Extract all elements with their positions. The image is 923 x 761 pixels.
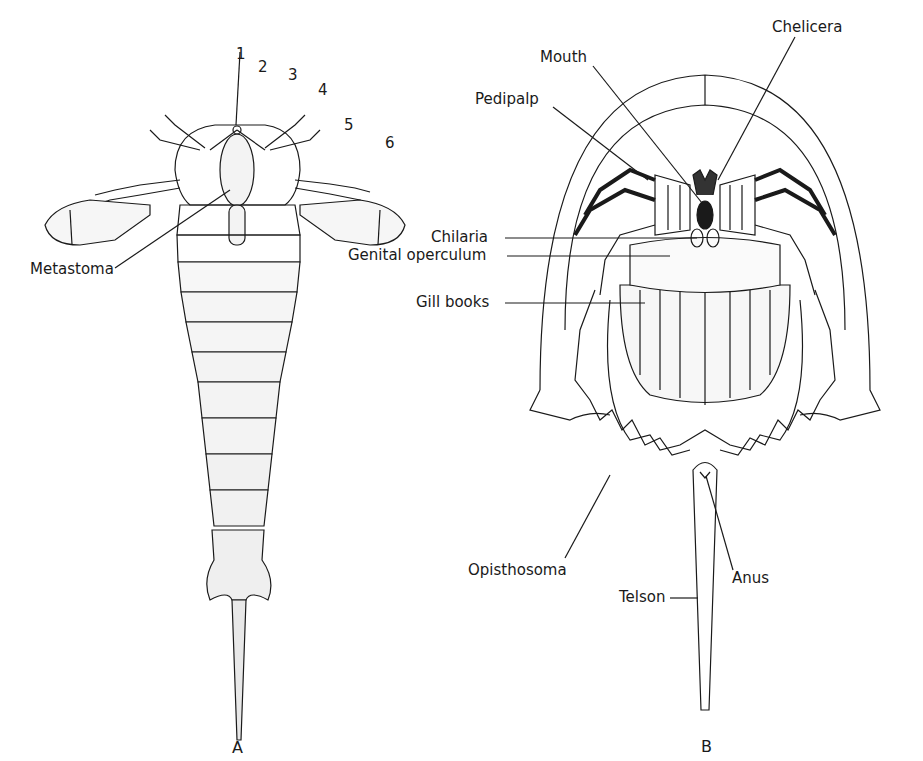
appendage-number-6: 6 [385,136,395,151]
leader-line-chelicera [718,37,795,180]
appendage-number-2: 2 [258,60,268,75]
leader-line-metastoma [115,190,230,268]
leader-line-opisthosoma [565,475,610,558]
diagram-drawing [0,0,923,761]
label-metastoma: Metastoma [30,262,114,277]
appendage-number-3: 3 [288,68,298,83]
label-anus: Anus [732,571,769,586]
horseshoe-crab-body [530,75,880,710]
label-opisthosoma: Opisthosoma [468,563,567,578]
eurypterid-body [45,115,405,740]
panel-label-b: B [701,739,712,755]
label-mouth: Mouth [540,50,587,65]
label-genital-operculum: Genital operculum [348,248,486,263]
label-chelicera: Chelicera [772,20,842,35]
label-chilaria: Chilaria [431,230,488,245]
label-gill-books: Gill books [416,295,489,310]
appendage-number-1: 1 [236,47,246,62]
label-pedipalp: Pedipalp [475,92,539,107]
label-telson: Telson [619,590,666,605]
appendage-number-4: 4 [318,83,328,98]
panel-label-a: A [232,740,243,756]
appendage-number-5: 5 [344,118,354,133]
